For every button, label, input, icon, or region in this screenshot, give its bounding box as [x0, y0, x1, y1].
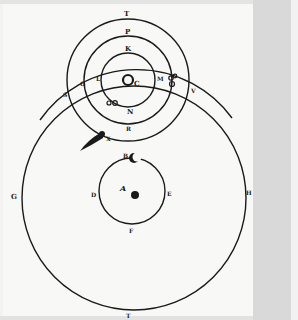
label-K-top: K — [125, 44, 132, 53]
moon-orbit — [99, 158, 165, 224]
label-E: E — [167, 190, 172, 197]
label-F: F — [129, 227, 134, 234]
label-R: R — [126, 125, 132, 132]
label-H: H — [246, 189, 252, 196]
label-D: D — [91, 191, 96, 198]
moon-icon — [129, 153, 142, 164]
label-S: S — [63, 91, 67, 98]
label-A: A — [119, 183, 126, 193]
sun-icon — [123, 75, 133, 85]
label-M: M — [157, 75, 164, 82]
label-G: G — [11, 192, 17, 201]
label-O: O — [80, 80, 85, 87]
label-X: X — [106, 135, 111, 142]
comet-icon — [80, 131, 105, 151]
label-T-bottom: T — [126, 312, 131, 319]
label-N: N — [127, 107, 134, 116]
label-P: P — [125, 27, 131, 36]
tychonic-diagram: T P K C L O S M V N R X B A D E F G H T — [0, 0, 298, 320]
label-B: B — [123, 152, 128, 159]
label-V: V — [190, 87, 196, 94]
label-C: C — [134, 79, 140, 88]
earth-icon — [131, 191, 139, 199]
label-T-top: T — [124, 9, 130, 18]
